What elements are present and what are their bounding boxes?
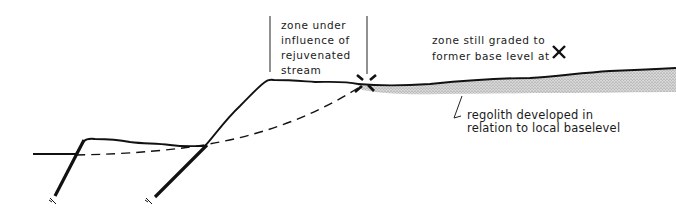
former-profile-dashed — [76, 88, 358, 155]
fault-left — [55, 140, 84, 196]
fault-right — [155, 145, 207, 197]
regolith-leader — [454, 96, 462, 118]
zone-still-graded-label: zone still graded to former base level a… — [432, 32, 550, 64]
fault-label-mark-right — [145, 198, 152, 204]
regolith-label: regolith developed in relation to local … — [467, 109, 620, 135]
x-mark-icon — [551, 44, 567, 60]
zone-under-influence-label: zone under influence of rejuvenated stre… — [281, 18, 351, 78]
regolith-layer — [358, 68, 676, 94]
fault-label-mark-left — [49, 198, 56, 204]
upper-slope-profile — [205, 80, 358, 146]
